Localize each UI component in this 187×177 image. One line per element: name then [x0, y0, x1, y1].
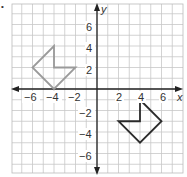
- x-tick-labels: −6 −4 −2 2 4 6 x: [22, 91, 183, 103]
- y-tick-pos6: 6: [86, 21, 92, 33]
- y-tick-pos4: 4: [86, 42, 92, 54]
- coordinate-plane: −6 −4 −2 2 4 6 x 6 4 2 −2 −4 −6 y: [0, 0, 187, 177]
- x-tick-neg6: −6: [24, 91, 37, 103]
- x-axis-label: x: [176, 91, 183, 103]
- x-tick-neg4: −4: [46, 91, 59, 103]
- y-tick-neg4: −4: [79, 128, 92, 140]
- y-tick-pos2: 2: [86, 64, 92, 76]
- x-tick-pos2: 2: [116, 91, 122, 103]
- y-tick-labels: 6 4 2 −2 −4 −6 y: [78, 3, 108, 162]
- y-tick-neg2: −2: [79, 107, 92, 119]
- x-tick-pos4: 4: [138, 91, 144, 103]
- x-tick-pos6: 6: [160, 91, 166, 103]
- y-axis-down-arrow-icon: [94, 167, 100, 175]
- x-tick-neg2: −2: [68, 91, 81, 103]
- y-axis-label: y: [100, 3, 108, 15]
- y-tick-neg6: −6: [79, 150, 92, 162]
